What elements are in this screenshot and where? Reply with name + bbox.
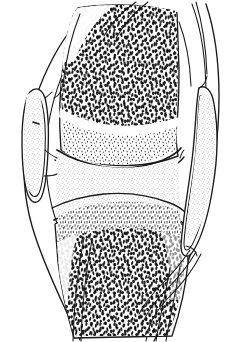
joint-cross-section-drawing: [0, 0, 241, 342]
upper-bone-femur: [50, 0, 195, 179]
anatomy-figure: Synovial joint cross-section (knee): [0, 0, 241, 342]
